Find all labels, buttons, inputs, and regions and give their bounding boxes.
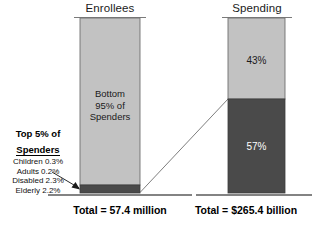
annotation-row-children: Children 0.3% bbox=[2, 157, 74, 167]
annotation-top-5-percent: Top 5% of Spenders Children 0.3% Adults … bbox=[2, 128, 74, 195]
column-header-spending: Spending bbox=[202, 2, 312, 14]
segment-label-spending-43: 43% bbox=[228, 55, 285, 66]
segment-label-spending-57: 57% bbox=[228, 141, 285, 152]
annotation-row-elderly: Elderly 2.2% bbox=[2, 186, 74, 196]
total-enrollees: Total = 57.4 million bbox=[48, 204, 192, 216]
bar-enrollees-top5 bbox=[80, 185, 140, 193]
annotation-row-adults: Adults 0.2% bbox=[2, 167, 74, 177]
bar-label-bottom-95: Bottom 95% of Spenders bbox=[80, 88, 140, 123]
annotation-title-line1: Top 5% of bbox=[2, 128, 74, 139]
annotation-row-disabled: Disabled 2.3% bbox=[2, 176, 74, 186]
connector-line bbox=[140, 99, 228, 193]
column-header-enrollees: Enrollees bbox=[55, 2, 165, 14]
annotation-title-line2-wrap: Spenders bbox=[2, 139, 74, 157]
total-spending: Total = $265.4 billion bbox=[176, 204, 316, 216]
annotation-title-line2: Spenders bbox=[16, 144, 59, 156]
